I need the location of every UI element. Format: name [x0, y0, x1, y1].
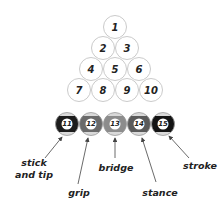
ball-number: 1 — [112, 22, 119, 33]
label-stick-and-tip: stick and tip — [14, 157, 54, 181]
ball-2: 2 — [92, 37, 115, 60]
ball-7: 7 — [68, 79, 91, 102]
ball-3: 3 — [116, 37, 139, 60]
ball-6: 6 — [128, 58, 151, 81]
ball-number: 7 — [76, 85, 83, 96]
ball-1: 1 — [104, 16, 127, 39]
ball-10: 10 — [140, 79, 163, 102]
label-grip: grip — [62, 187, 96, 199]
ball-15: 15 — [151, 113, 175, 136]
label-bridge: bridge — [98, 162, 134, 174]
ball-number: 15 — [158, 120, 168, 128]
ball-4: 4 — [80, 58, 103, 81]
label-stroke: stroke — [180, 160, 220, 172]
ball-number: 11 — [62, 120, 72, 128]
label-line: grip — [62, 187, 96, 199]
ball-number: 8 — [100, 85, 107, 96]
ball-14: 14 — [127, 113, 151, 136]
ball-11: 11 — [55, 113, 79, 136]
arrow-grip — [78, 138, 88, 184]
label-line: stance — [140, 187, 180, 199]
ball-8: 8 — [92, 79, 115, 102]
ball-9: 9 — [116, 79, 139, 102]
ball-12: 12 — [79, 113, 103, 136]
ball-number: 5 — [112, 64, 119, 75]
arrow-stick-and-tip — [45, 137, 62, 158]
ball-number: 2 — [100, 43, 107, 54]
label-line: stroke — [180, 160, 220, 172]
arrow-stroke — [169, 136, 189, 158]
label-stance: stance — [140, 187, 180, 199]
ball-number: 3 — [124, 43, 131, 54]
label-line: stick — [14, 157, 54, 169]
ball-number: 9 — [124, 85, 131, 96]
ball-13: 13 — [103, 113, 127, 136]
label-line: and tip — [14, 169, 54, 181]
ball-5: 5 — [104, 58, 127, 81]
ball-number: 6 — [136, 64, 143, 75]
ball-number: 4 — [87, 64, 95, 75]
ball-number: 14 — [134, 120, 144, 128]
ball-number: 12 — [86, 120, 96, 128]
label-line: bridge — [98, 162, 134, 174]
ball-number: 13 — [110, 120, 120, 128]
ball-number: 10 — [144, 85, 158, 96]
arrow-stance — [142, 138, 156, 182]
